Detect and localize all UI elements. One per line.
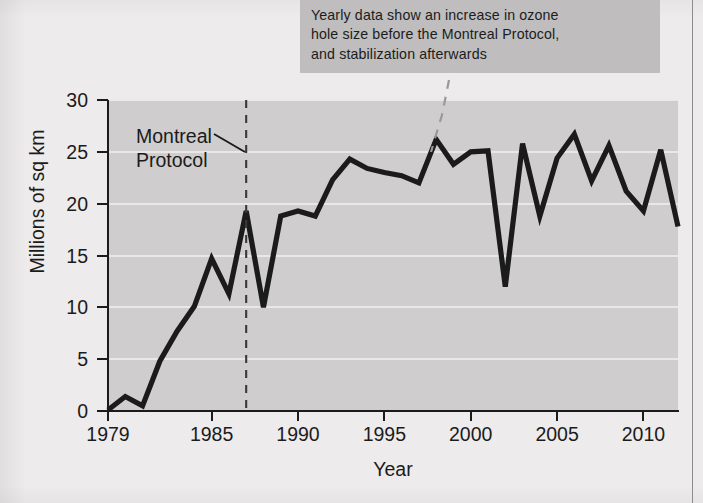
series-line-ozone-hole-area (108, 134, 678, 410)
montreal-protocol-label-line-1: Montreal (136, 124, 212, 148)
callout-note: Yearly data show an increase in ozone ho… (300, 0, 660, 73)
montreal-protocol-label: Montreal Protocol (136, 124, 212, 172)
montreal-protocol-label-line-2: Protocol (136, 148, 212, 172)
figure-page: 051015202530 197919851990199520002005201… (0, 0, 703, 503)
callout-line-3: and stabilization afterwards (311, 45, 650, 64)
chart-vector-overlay (0, 0, 703, 503)
callout-line-2: hole size before the Montreal Protocol, (311, 25, 650, 44)
montreal-label-leader-line (214, 134, 245, 152)
callout-line-1: Yearly data show an increase in ozone (311, 6, 650, 25)
ozone-hole-line-chart: 051015202530 197919851990199520002005201… (0, 0, 703, 503)
